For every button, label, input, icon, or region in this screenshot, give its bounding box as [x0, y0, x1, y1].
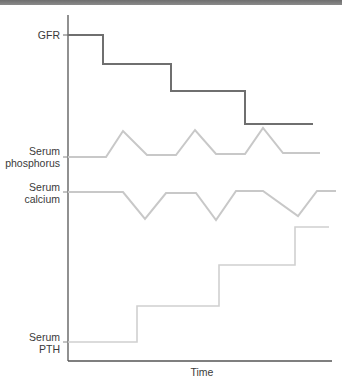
calcium-label-line1: Serum — [0, 181, 60, 193]
calcium-label: Serum calcium — [0, 181, 60, 205]
phosphorus-label-line2: phosphorus — [0, 157, 60, 169]
pth-label: Serum PTH — [0, 331, 60, 355]
x-axis-label: Time — [170, 366, 234, 378]
pth-line — [68, 227, 329, 342]
calcium-line — [68, 191, 336, 220]
gfr-line — [68, 35, 313, 124]
gfr-label: GFR — [20, 29, 60, 41]
phosphorus-label: Serum phosphorus — [0, 145, 60, 169]
phosphorus-label-line1: Serum — [0, 145, 60, 157]
phosphorus-line — [68, 128, 320, 157]
pth-label-line1: Serum — [0, 331, 60, 343]
pth-label-line2: PTH — [0, 343, 60, 355]
calcium-label-line2: calcium — [0, 193, 60, 205]
